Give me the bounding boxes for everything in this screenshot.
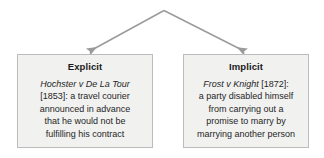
node-line: [1853]: a travel courier bbox=[23, 90, 147, 102]
case-citation-frost: [1872]: bbox=[259, 79, 289, 89]
node-line: promise to marry by bbox=[189, 115, 303, 127]
node-line: marrying another person bbox=[189, 128, 303, 140]
node-body-explicit: Hochster v De La Tour [1853]: a travel c… bbox=[23, 78, 147, 140]
node-title-implicit: Implicit bbox=[189, 60, 303, 73]
node-line: announced in advance bbox=[23, 103, 147, 115]
node-body-implicit: Frost v Knight [1872]: a party disabled … bbox=[189, 78, 303, 140]
node-line: that he would not be bbox=[23, 115, 147, 127]
node-box-implicit[interactable]: Implicit Frost v Knight [1872]: a party … bbox=[183, 54, 309, 148]
node-title-explicit: Explicit bbox=[23, 60, 147, 73]
case-name-frost: Frost v Knight bbox=[203, 79, 259, 89]
node-box-explicit[interactable]: Explicit Hochster v De La Tour [1853]: a… bbox=[17, 54, 153, 148]
diagram-canvas: Explicit Hochster v De La Tour [1853]: a… bbox=[0, 0, 324, 158]
node-line: Frost v Knight [1872]: bbox=[189, 78, 303, 90]
node-line: from carrying out a bbox=[189, 103, 303, 115]
node-line: a party disabled himself bbox=[189, 90, 303, 102]
arrow-to-implicit bbox=[164, 11, 244, 52]
node-line: Hochster v De La Tour bbox=[23, 78, 147, 90]
arrow-to-explicit bbox=[90, 11, 164, 52]
node-line: fulfilling his contract bbox=[23, 128, 147, 140]
case-name-hochster: Hochster v De La Tour bbox=[40, 79, 130, 89]
